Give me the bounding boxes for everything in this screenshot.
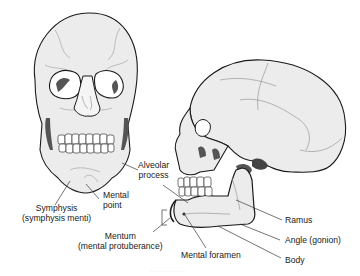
leader-alveolar-anterior <box>122 163 138 170</box>
leader-ramus <box>236 200 282 220</box>
leader-angle <box>240 224 280 240</box>
label-angle-gonion: Angle (gonion) <box>285 235 341 245</box>
label-mental-foramen: Mental foramen <box>181 250 241 260</box>
leader-symphysis <box>55 181 70 205</box>
label-mental-point-line2: point <box>103 200 129 210</box>
leader-mentum <box>153 218 170 232</box>
label-mentum-line2: (mental protuberance) <box>78 241 163 251</box>
label-mental-point-line1: Mental <box>103 190 129 200</box>
label-mentum: Mentum (mental protuberance) <box>78 231 163 251</box>
label-mental-point: Mental point <box>103 190 129 210</box>
figure-caption-cropped: · · · · · · · · · · · · <box>150 268 290 274</box>
label-alveolar-process: Alveolar process <box>138 160 169 180</box>
leader-mental-point <box>86 184 99 199</box>
leader-alveolar-lateral <box>163 185 188 203</box>
label-ramus: Ramus <box>285 215 312 225</box>
label-alveolar-line2: process <box>138 170 169 180</box>
label-alveolar-line1: Alveolar <box>138 160 169 170</box>
label-body: Body <box>285 255 305 265</box>
label-mentum-line1: Mentum <box>78 231 163 241</box>
skull-mandible-diagram: Symphysis (symphysis menti) Mental point… <box>0 0 360 276</box>
label-symphysis: Symphysis (symphysis menti) <box>22 203 91 223</box>
label-symphysis-line2: (symphysis menti) <box>22 213 91 223</box>
label-symphysis-line1: Symphysis <box>22 203 91 213</box>
leader-mental-foramen <box>185 215 206 248</box>
